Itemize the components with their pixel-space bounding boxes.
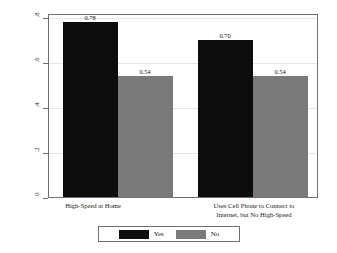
bar-group2-no — [253, 76, 308, 197]
bar-chart-figure: Probability of Using Internet: To Get Lo… — [0, 0, 337, 253]
bar-value-group2-yes: 0.70 — [197, 32, 253, 40]
bar-group1-yes — [63, 22, 118, 197]
bar-value-group1-yes: 0.78 — [62, 14, 118, 22]
legend-swatch-no-icon — [176, 230, 206, 239]
legend-entry-yes: Yes — [119, 230, 164, 239]
y-tick-label-8: .8 — [33, 13, 40, 25]
bar-group2-yes — [198, 40, 253, 197]
chart-legend: Yes No — [98, 226, 240, 242]
y-tick-label-6: .6 — [33, 58, 40, 70]
legend-swatch-yes-icon — [119, 230, 149, 239]
x-category-label-1: High-Speed at Home — [50, 202, 136, 211]
legend-label-no: No — [211, 230, 220, 238]
legend-entry-no: No — [176, 230, 220, 239]
y-tick-label-0: 0 — [33, 193, 40, 205]
plot-area — [48, 14, 318, 198]
y-tick-label-2: .2 — [33, 148, 40, 160]
x-category-label-2-line-1: Uses Cell Phone to Connect to — [214, 202, 295, 209]
x-category-label-2-line-2: Internet, but No High-Speed — [216, 211, 291, 218]
x-category-label-1-line-1: High-Speed at Home — [65, 202, 121, 209]
x-category-label-2: Uses Cell Phone to Connect to Internet, … — [180, 202, 328, 219]
y-tick-mark-0 — [43, 198, 48, 199]
bar-value-group1-no: 0.54 — [117, 68, 173, 76]
y-tick-label-4: .4 — [33, 103, 40, 115]
bar-value-group2-no: 0.54 — [252, 68, 308, 76]
bar-group1-no — [118, 76, 173, 197]
plot-inner — [49, 15, 317, 197]
legend-label-yes: Yes — [154, 230, 164, 238]
